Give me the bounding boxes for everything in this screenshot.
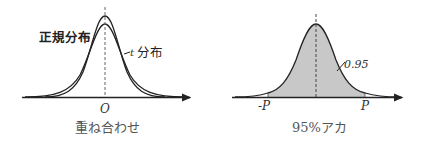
normal-distribution-label: 正規分布 <box>39 30 91 45</box>
area-label: 0.95 <box>344 58 369 71</box>
p-label: P <box>360 99 370 113</box>
diagram-canvas: 正規分布 t 分布 O 重ね合わせ 0.95 -P P 95%アカ <box>0 0 421 141</box>
neg-p-label: -P <box>258 99 271 113</box>
t-distribution-label: 分布 <box>137 45 163 60</box>
overlay-diagram: 正規分布 t 分布 O 重ね合わせ <box>22 7 190 135</box>
confidence-caption: 95%アカ <box>292 120 347 135</box>
t-label: t <box>130 47 135 58</box>
confidence-diagram: 0.95 -P P 95%アカ <box>232 14 402 135</box>
overlay-caption: 重ね合わせ <box>75 120 140 135</box>
origin-label: O <box>100 102 110 116</box>
